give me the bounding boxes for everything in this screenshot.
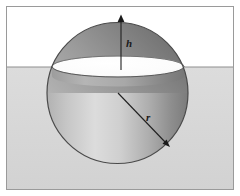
radius-label: r <box>146 111 151 123</box>
figure-container: h r <box>0 0 240 196</box>
cap-height-label: h <box>126 37 132 49</box>
sphere-in-liquid-diagram: h r <box>0 0 240 196</box>
